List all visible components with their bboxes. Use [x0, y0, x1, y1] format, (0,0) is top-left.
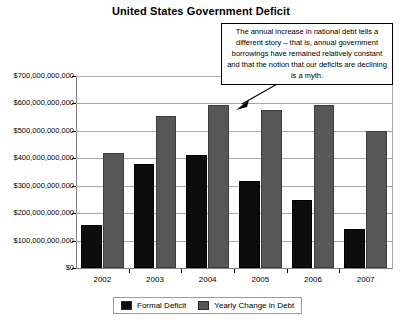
bar [292, 200, 313, 268]
bar [81, 225, 102, 268]
bar [186, 155, 207, 268]
x-axis-tick-label: 2006 [304, 275, 322, 284]
y-axis-tick-label: $300,000,000,000 [0, 182, 74, 190]
x-axis-tick-label: 2005 [251, 275, 269, 284]
x-axis-tick-mark [181, 269, 182, 273]
bar [344, 229, 365, 268]
bar [134, 164, 155, 268]
legend-label-yearly-change-in-debt: Yearly Change in Debt [214, 301, 294, 310]
y-axis-tick-label: $200,000,000,000 [0, 209, 74, 217]
x-axis-tick-label: 2007 [357, 275, 375, 284]
legend-item-formal-deficit: Formal Deficit [121, 301, 186, 310]
x-axis-tick-label: 2004 [199, 275, 217, 284]
x-axis-tick-label: 2003 [146, 275, 164, 284]
y-axis-tick-label: $700,000,000,000 [0, 72, 74, 80]
chart-title: United States Government Deficit [0, 5, 402, 17]
bar [208, 105, 229, 268]
annotation-callout: The annual increase in national debt tel… [221, 23, 393, 85]
bar [366, 131, 387, 268]
x-axis-tick-mark [129, 269, 130, 273]
bar [261, 110, 282, 268]
y-axis-tick-label: $500,000,000,000 [0, 127, 74, 135]
legend-swatch-yearly-change-in-debt [198, 301, 209, 310]
chart-container: United States Government Deficit $0$100,… [0, 0, 402, 322]
legend-swatch-formal-deficit [121, 301, 132, 310]
legend-label-formal-deficit: Formal Deficit [137, 301, 186, 310]
bar [103, 153, 124, 268]
x-axis-tick-mark [339, 269, 340, 273]
x-axis-tick-mark [287, 269, 288, 273]
bar [156, 116, 177, 268]
x-axis-tick-label: 2002 [93, 275, 111, 284]
bar [314, 105, 335, 268]
y-axis-tick-label: $0 [0, 264, 74, 272]
y-axis-tick-label: $100,000,000,000 [0, 237, 74, 245]
x-axis-tick-mark [234, 269, 235, 273]
y-axis-tick-label: $400,000,000,000 [0, 155, 74, 163]
bar [239, 181, 260, 268]
legend-item-yearly-change-in-debt: Yearly Change in Debt [198, 301, 294, 310]
y-axis-tick-label: $600,000,000,000 [0, 100, 74, 108]
chart-legend: Formal Deficit Yearly Change in Debt [113, 297, 302, 314]
